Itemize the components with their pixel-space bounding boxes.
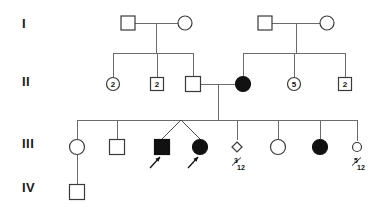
gestational-age-label: 512	[352, 157, 365, 171]
sibling-count-label: 5	[292, 80, 297, 89]
circle-symbol-affected	[193, 140, 208, 155]
square-symbol-unaffected	[110, 140, 125, 155]
individual-II-3	[186, 77, 201, 92]
proband-arrow	[188, 157, 198, 168]
connection-line-group	[77, 23, 357, 184]
twin-branch-line	[181, 120, 200, 139]
sibling-count-label: 2	[343, 80, 348, 89]
individual-I-1	[121, 16, 135, 30]
circle-symbol-unaffected	[320, 16, 334, 30]
age-denominator: 12	[357, 164, 365, 171]
individual-symbol-group: 2252312512	[70, 16, 365, 200]
generation-label-i: I	[22, 16, 26, 31]
circle-symbol-affected	[236, 77, 251, 92]
individual-II-4	[236, 77, 251, 92]
individual-I-4	[320, 16, 334, 30]
sibling-count-label: 2	[111, 80, 116, 89]
circle-symbol-unaffected	[353, 143, 362, 152]
individual-III-8	[353, 143, 362, 152]
square-symbol-unaffected	[258, 16, 272, 30]
individual-III-6	[271, 140, 286, 155]
age-denominator: 12	[237, 164, 245, 171]
individual-III-2	[110, 140, 125, 155]
circle-symbol-unaffected	[271, 140, 286, 155]
individual-I-3	[258, 16, 272, 30]
individual-III-7	[313, 140, 328, 155]
circle-symbol-unaffected	[178, 16, 192, 30]
generation-label-iii: III	[22, 136, 34, 151]
individual-III-3	[155, 140, 170, 155]
circle-symbol-affected	[313, 140, 328, 155]
circle-symbol-unaffected	[70, 140, 85, 155]
individual-I-2	[178, 16, 192, 30]
generation-label-group: IIIIIIIV	[22, 16, 35, 195]
sibling-count-label: 2	[155, 80, 160, 89]
individual-III-5	[232, 142, 242, 152]
individual-II-6: 2	[339, 78, 352, 91]
individual-II-5: 5	[288, 78, 301, 91]
generation-label-ii: II	[22, 74, 30, 89]
gestational-age-label: 312	[232, 157, 245, 171]
generation-label-iv: IV	[22, 180, 35, 195]
individual-III-4	[193, 140, 208, 155]
pedigree-chart: IIIIIIIV 2252312512	[0, 0, 386, 212]
twin-branch-line	[162, 120, 181, 139]
square-symbol-unaffected	[186, 77, 201, 92]
individual-IV-1	[70, 185, 85, 200]
proband-arrow	[150, 157, 160, 168]
pedigree-canvas: IIIIIIIV 2252312512	[0, 0, 386, 212]
individual-II-1: 2	[107, 78, 120, 91]
square-symbol-affected	[155, 140, 170, 155]
individual-II-2: 2	[151, 78, 164, 91]
proband-arrow-group	[150, 157, 198, 168]
individual-III-1	[70, 140, 85, 155]
square-symbol-unaffected	[70, 185, 85, 200]
diamond-symbol-unaffected	[232, 142, 242, 152]
square-symbol-unaffected	[121, 16, 135, 30]
